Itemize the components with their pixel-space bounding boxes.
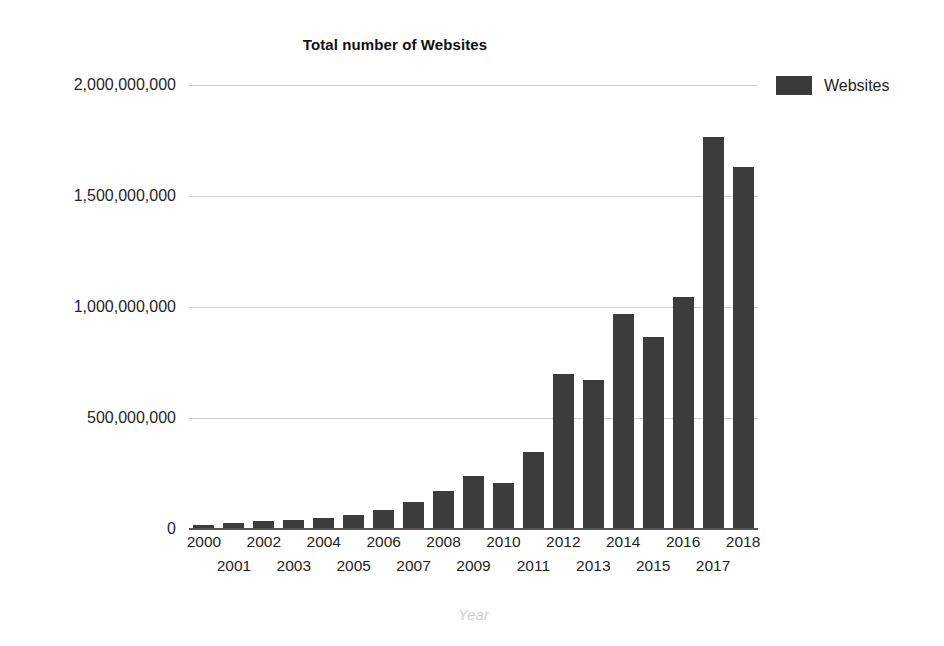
x-tick-label: 2008 xyxy=(426,533,460,551)
x-tick-label: 2018 xyxy=(726,533,760,551)
bar[interactable] xyxy=(463,476,484,529)
bar[interactable] xyxy=(433,491,454,529)
bar-chart: Total number of Websites Websites 0500,0… xyxy=(0,0,944,646)
bar[interactable] xyxy=(583,380,604,529)
x-tick-label: 2002 xyxy=(247,533,281,551)
bar[interactable] xyxy=(703,137,724,529)
x-axis-tick-labels: 2000200120022003200420052006200720082009… xyxy=(189,533,789,593)
y-tick-label: 2,000,000,000 xyxy=(16,76,176,94)
x-tick-label: 2016 xyxy=(666,533,700,551)
legend-swatch-websites xyxy=(776,76,812,95)
bar[interactable] xyxy=(613,314,634,529)
bar[interactable] xyxy=(343,515,364,529)
bar[interactable] xyxy=(493,483,514,529)
y-tick-label: 500,000,000 xyxy=(16,409,176,427)
bar[interactable] xyxy=(673,297,694,529)
x-tick-label: 2004 xyxy=(307,533,341,551)
y-tick-label: 0 xyxy=(16,520,176,538)
gridline xyxy=(189,196,758,197)
x-tick-label: 2003 xyxy=(277,557,311,575)
bar[interactable] xyxy=(553,374,574,529)
chart-title: Total number of Websites xyxy=(0,36,790,53)
x-axis-line xyxy=(189,528,758,530)
bar[interactable] xyxy=(403,502,424,529)
x-axis-title: Year xyxy=(189,606,758,623)
bar[interactable] xyxy=(733,167,754,529)
bar[interactable] xyxy=(373,510,394,529)
bar[interactable] xyxy=(643,337,664,529)
x-tick-label: 2017 xyxy=(696,557,730,575)
x-tick-label: 2009 xyxy=(456,557,490,575)
x-tick-label: 2013 xyxy=(576,557,610,575)
x-tick-label: 2015 xyxy=(636,557,670,575)
x-tick-label: 2000 xyxy=(187,533,221,551)
x-tick-label: 2006 xyxy=(366,533,400,551)
chart-legend: Websites xyxy=(776,76,890,95)
x-tick-label: 2010 xyxy=(486,533,520,551)
x-tick-label: 2012 xyxy=(546,533,580,551)
x-tick-label: 2007 xyxy=(396,557,430,575)
y-tick-label: 1,500,000,000 xyxy=(16,187,176,205)
legend-label-websites: Websites xyxy=(824,77,890,95)
gridline xyxy=(189,85,758,86)
x-tick-label: 2014 xyxy=(606,533,640,551)
y-tick-label: 1,000,000,000 xyxy=(16,298,176,316)
bar[interactable] xyxy=(523,452,544,529)
x-tick-label: 2005 xyxy=(336,557,370,575)
plot-area xyxy=(189,85,758,529)
x-tick-label: 2001 xyxy=(217,557,251,575)
x-tick-label: 2011 xyxy=(517,557,550,575)
